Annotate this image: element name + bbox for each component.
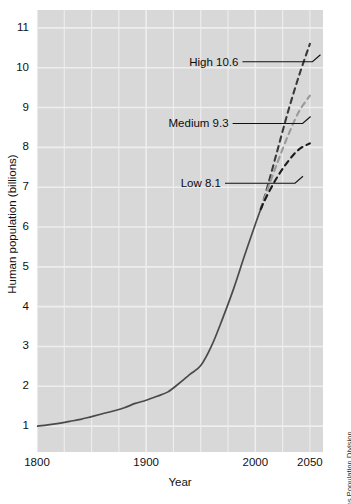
leader-line-medium (233, 116, 311, 123)
y-tick-label: 7 (23, 181, 29, 193)
y-tick-label: 9 (23, 102, 29, 114)
leader-line-high (242, 55, 320, 62)
series-line (261, 96, 310, 209)
leader-line-low (225, 176, 303, 183)
y-tick-label: 5 (23, 261, 29, 273)
annotation-medium: Medium 9.3 (37, 117, 229, 129)
plot-area: High 10.6Medium 9.3Low 8.1 (37, 10, 323, 452)
series-line (37, 209, 261, 426)
x-axis-title: Year (37, 476, 323, 488)
annotation-high: High 10.6 (37, 56, 238, 68)
x-tick-label: 1900 (133, 456, 159, 468)
y-tick-label: 11 (17, 22, 29, 34)
y-tick-label: 2 (23, 381, 29, 393)
annotation-low: Low 8.1 (37, 177, 221, 189)
y-tick-label: 4 (23, 301, 29, 313)
horizontal-gridlines (37, 28, 323, 426)
x-tick-label: 1800 (24, 456, 50, 468)
plot-canvas (37, 10, 323, 452)
x-axis-tick-labels: 1800190020002050 (37, 456, 323, 472)
y-tick-label: 3 (23, 341, 29, 353)
x-tick-label: 2000 (243, 456, 269, 468)
y-tick-label: 6 (23, 221, 29, 233)
y-tick-label: 10 (16, 62, 29, 74)
y-axis-title: Human population (billions) (6, 134, 18, 314)
x-tick-label: 2050 (297, 456, 323, 468)
population-growth-figure: High 10.6Medium 9.3Low 8.1 1234567891011… (0, 0, 351, 504)
annotation-leader-lines (225, 55, 320, 183)
series-line (261, 44, 310, 209)
y-tick-label: 8 (23, 142, 29, 154)
source-credit: Based on data from World Population Pros… (346, 431, 351, 504)
y-tick-label: 1 (23, 420, 29, 432)
